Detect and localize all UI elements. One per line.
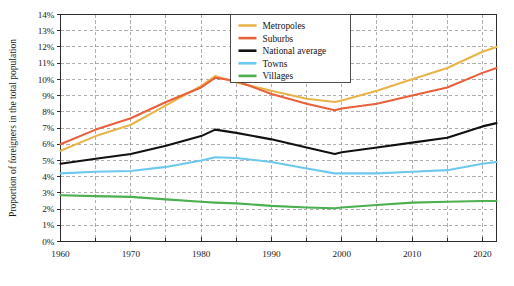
x-tick-label: 1960 xyxy=(51,249,70,259)
x-tick-label: 2020 xyxy=(473,249,492,259)
y-tick-label: 7% xyxy=(42,123,55,133)
y-tick-label: 1% xyxy=(42,220,55,230)
x-tick-label: 1980 xyxy=(192,249,211,259)
y-tick-label: 3% xyxy=(42,188,55,198)
y-tick-label: 10% xyxy=(38,75,55,85)
chart-container: 0%1%2%3%4%5%6%7%8%9%10%11%12%13%14% 1960… xyxy=(0,0,514,286)
y-tick-label: 11% xyxy=(38,58,55,68)
x-tick-label: 1990 xyxy=(262,249,281,259)
y-tick-label: 8% xyxy=(42,107,55,117)
y-axis-title: Proportion of foreigners in the total po… xyxy=(8,39,18,217)
legend-label-national-average: National average xyxy=(263,46,327,56)
y-tick-label: 12% xyxy=(38,42,55,52)
y-tick-label: 2% xyxy=(42,204,55,214)
line-chart: 0%1%2%3%4%5%6%7%8%9%10%11%12%13%14% 1960… xyxy=(0,0,514,286)
y-tick-label: 9% xyxy=(42,91,55,101)
legend-label-metropoles: Metropoles xyxy=(263,21,306,31)
y-tick-label: 14% xyxy=(38,10,55,20)
x-tick-label: 2010 xyxy=(403,249,422,259)
legend-label-towns: Towns xyxy=(263,59,288,69)
y-tick-label: 5% xyxy=(42,156,55,166)
x-tick-label: 2000 xyxy=(333,249,352,259)
x-tick-label: 1970 xyxy=(122,249,141,259)
y-tick-label: 4% xyxy=(42,172,55,182)
chart-legend: MetropolesSuburbsNational averageTownsVi… xyxy=(231,15,351,83)
legend-label-suburbs: Suburbs xyxy=(263,34,294,44)
legend-label-villages: Villages xyxy=(263,71,294,81)
y-tick-label: 6% xyxy=(42,139,55,149)
y-tick-label: 13% xyxy=(38,26,55,36)
y-tick-label: 0% xyxy=(42,237,55,247)
